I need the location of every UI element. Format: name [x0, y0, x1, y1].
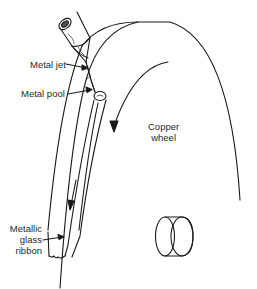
wheel-outer-rim — [82, 22, 240, 200]
metal-pool — [94, 92, 106, 101]
label-ribbon-line3: ribbon — [4, 245, 42, 256]
wheel-rim-line-2 — [79, 103, 98, 230]
rotation-arrow-head — [110, 121, 118, 132]
crucible — [57, 12, 90, 62]
rotation-arrow-shaft — [114, 62, 168, 128]
label-copper-wheel-line1: Copper — [148, 121, 179, 132]
melt-spinning-diagram: Metal jet Metal pool Copper wheel Metall… — [0, 0, 257, 289]
label-ribbon-line2: glass — [4, 234, 42, 245]
label-ribbon-line1: Metallic — [4, 223, 42, 234]
wheel-rim-line-1 — [48, 46, 82, 230]
ribbon-torn-end — [49, 256, 63, 258]
hub-cylinder — [156, 217, 194, 256]
label-metal-pool: Metal pool — [21, 88, 65, 99]
label-metal-jet: Metal jet — [30, 59, 66, 70]
wheel-front-edge — [60, 22, 138, 288]
label-copper-wheel: Copper wheel — [148, 121, 179, 143]
label-copper-wheel-line2: wheel — [148, 132, 179, 143]
label-metallic-glass-ribbon: Metallic glass ribbon — [4, 223, 42, 256]
